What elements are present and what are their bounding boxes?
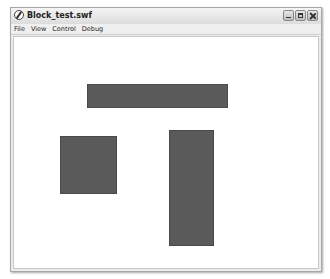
title-bar[interactable]: Block_test.swf: [11, 8, 321, 25]
menu-debug[interactable]: Debug: [82, 24, 103, 34]
menu-file[interactable]: File: [14, 24, 25, 34]
minimize-button[interactable]: [283, 10, 294, 21]
flash-player-window: Block_test.swf File View Control Debug: [10, 7, 322, 272]
menu-bar: File View Control Debug: [11, 24, 321, 35]
flash-stage[interactable]: [13, 36, 319, 269]
window-title: Block_test.swf: [27, 10, 92, 21]
flash-player-icon: [14, 10, 24, 20]
vertical-bar-block: [169, 130, 214, 246]
menu-view[interactable]: View: [31, 24, 46, 34]
horizontal-bar-block: [87, 84, 228, 108]
menu-control[interactable]: Control: [52, 24, 76, 34]
square-block: [60, 136, 117, 194]
close-button[interactable]: [307, 10, 318, 21]
maximize-button[interactable]: [295, 10, 306, 21]
